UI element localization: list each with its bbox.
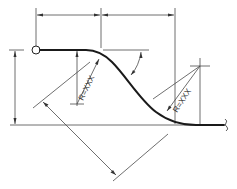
angle-dimension: [103, 50, 149, 75]
break-symbol-icon: [225, 119, 228, 131]
arrowhead-icon: [102, 14, 108, 17]
s-curve-drawing: R=XXX R=XXX: [0, 0, 237, 189]
extension-line-slanted-lower: [113, 134, 168, 181]
radius-upper: R=XXX: [70, 51, 99, 106]
arrowhead-icon: [37, 14, 43, 17]
radius-lower: R=XXX: [153, 58, 210, 124]
s-curve-profile: [40, 50, 224, 125]
tangent-construction-line: [153, 66, 200, 99]
arrowhead-icon: [76, 51, 79, 57]
arrowhead-icon: [14, 118, 17, 124]
radius-upper-label: R=XXX: [77, 74, 97, 102]
arrowhead-icon: [131, 70, 136, 75]
arrowhead-icon: [95, 59, 99, 65]
arrowhead-icon: [140, 52, 143, 58]
dimension-slanted-width: [33, 62, 168, 181]
dimension-horizontal-2: [102, 14, 174, 17]
arrowhead-icon: [168, 14, 174, 17]
dimension-horizontal-1: [37, 14, 100, 17]
arrowhead-icon: [94, 14, 100, 17]
circle-icon: [32, 46, 40, 54]
dimension-vertical-height: [9, 50, 24, 124]
arrowhead-icon: [14, 51, 17, 57]
